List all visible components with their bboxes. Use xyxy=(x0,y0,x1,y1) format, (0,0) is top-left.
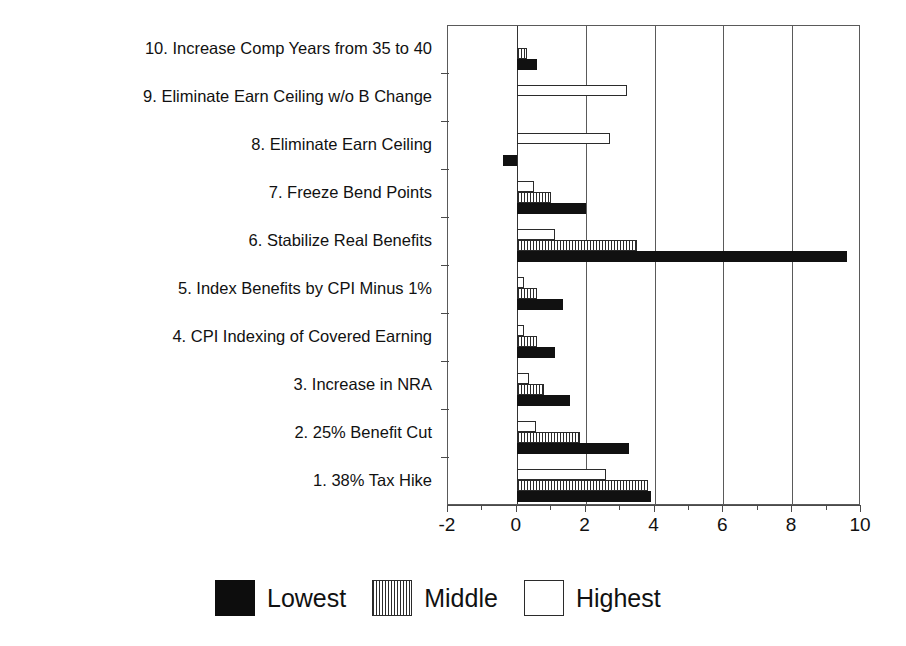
legend-item[interactable]: Lowest xyxy=(215,580,346,616)
category-label: 5. Index Benefits by CPI Minus 1% xyxy=(0,279,432,298)
gridline xyxy=(723,26,724,504)
x-axis-tick xyxy=(516,505,517,512)
legend-label: Lowest xyxy=(267,584,346,612)
y-axis-tick xyxy=(441,409,449,410)
bar-middle xyxy=(517,480,648,491)
bar-chart: 1. 38% Tax Hike2. 25% Benefit Cut3. Incr… xyxy=(0,0,906,646)
x-axis-tick-label: -2 xyxy=(424,514,470,536)
bar-highest xyxy=(517,373,529,384)
x-axis-tick-label: 0 xyxy=(493,514,539,536)
x-axis-tick xyxy=(447,505,448,512)
y-axis-tick xyxy=(441,457,449,458)
bar-highest xyxy=(517,181,534,192)
bar-lowest xyxy=(517,347,555,358)
category-label: 6. Stabilize Real Benefits xyxy=(0,231,432,250)
bar-highest xyxy=(517,325,524,336)
empty-swatch xyxy=(524,580,564,616)
x-axis-tick-label: 2 xyxy=(562,514,608,536)
bar-lowest xyxy=(517,299,563,310)
x-axis-minor-tick xyxy=(688,505,689,510)
x-axis-tick xyxy=(791,505,792,512)
category-label: 2. 25% Benefit Cut xyxy=(0,423,432,442)
x-axis-tick xyxy=(722,505,723,512)
x-axis-minor-tick xyxy=(619,505,620,510)
legend-item[interactable]: Highest xyxy=(524,580,661,616)
plot-area xyxy=(447,25,860,505)
x-axis-tick xyxy=(654,505,655,512)
bar-highest xyxy=(517,133,610,144)
bar-lowest xyxy=(517,251,847,262)
category-label: 7. Freeze Bend Points xyxy=(0,183,432,202)
bar-lowest xyxy=(517,491,651,502)
x-axis-tick-label: 10 xyxy=(837,514,883,536)
y-axis-tick xyxy=(441,121,449,122)
gridline xyxy=(655,26,656,504)
bar-lowest xyxy=(517,203,586,214)
category-axis-labels: 1. 38% Tax Hike2. 25% Benefit Cut3. Incr… xyxy=(0,25,440,505)
x-axis-minor-tick xyxy=(481,505,482,510)
x-axis-tick-label: 6 xyxy=(699,514,745,536)
x-axis-tick xyxy=(860,505,861,512)
gridline xyxy=(792,26,793,504)
x-axis-tick-label: 8 xyxy=(768,514,814,536)
bar-lowest xyxy=(503,155,517,166)
y-axis-tick xyxy=(441,265,449,266)
bar-middle xyxy=(517,192,551,203)
bar-middle xyxy=(517,288,538,299)
legend-label: Middle xyxy=(424,584,498,612)
bar-middle xyxy=(517,336,538,347)
striped-swatch xyxy=(372,580,412,616)
bar-middle xyxy=(517,384,545,395)
category-label: 3. Increase in NRA xyxy=(0,375,432,394)
category-label: 10. Increase Comp Years from 35 to 40 xyxy=(0,39,432,58)
category-label: 4. CPI Indexing of Covered Earning xyxy=(0,327,432,346)
x-axis-tick xyxy=(585,505,586,512)
y-axis-tick xyxy=(441,361,449,362)
category-label: 8. Eliminate Earn Ceiling xyxy=(0,135,432,154)
bar-lowest xyxy=(517,59,538,70)
category-label: 1. 38% Tax Hike xyxy=(0,471,432,490)
x-axis-tick-label: 4 xyxy=(631,514,677,536)
legend-item[interactable]: Middle xyxy=(372,580,498,616)
category-label: 9. Eliminate Earn Ceiling w/o B Change xyxy=(0,87,432,106)
bar-lowest xyxy=(517,395,570,406)
bar-highest xyxy=(517,277,524,288)
x-axis-minor-tick xyxy=(757,505,758,510)
gridline xyxy=(586,26,587,504)
bar-highest xyxy=(517,469,606,480)
legend-label: Highest xyxy=(576,584,661,612)
y-axis-tick xyxy=(441,313,449,314)
bar-highest xyxy=(517,421,536,432)
x-axis-minor-tick xyxy=(826,505,827,510)
chart-legend: LowestMiddleHighest xyxy=(215,575,661,621)
y-axis-tick xyxy=(441,73,449,74)
y-axis-tick xyxy=(441,169,449,170)
y-axis-tick xyxy=(441,217,449,218)
bar-highest xyxy=(517,229,555,240)
bar-middle xyxy=(517,48,527,59)
bar-middle xyxy=(517,240,637,251)
bar-highest xyxy=(517,85,627,96)
solid-black-swatch xyxy=(215,580,255,616)
x-axis-minor-tick xyxy=(550,505,551,510)
bar-lowest xyxy=(517,443,629,454)
bar-middle xyxy=(517,432,581,443)
